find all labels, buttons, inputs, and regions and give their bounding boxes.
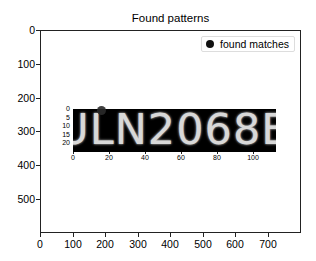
inset-x-tick-label: 100 — [247, 154, 259, 162]
inset-x-tick-label: 0 — [71, 154, 75, 162]
plate-text: ULN2068B — [73, 109, 276, 152]
inset-x-tick-label: 40 — [141, 154, 149, 162]
inset-x-tick-label: 80 — [213, 154, 221, 162]
x-tick-label: 100 — [64, 238, 82, 250]
x-tick-label: 400 — [161, 238, 179, 250]
x-tick — [170, 233, 171, 237]
legend-box: found matches — [201, 36, 295, 52]
x-tick — [203, 233, 204, 237]
plate-image: ULN2068B — [73, 109, 276, 152]
inset-x-tick-label: 20 — [105, 154, 113, 162]
x-tick-label: 500 — [194, 238, 212, 250]
y-tick-label: 500 — [17, 193, 35, 205]
y-tick-label: 400 — [17, 159, 35, 171]
y-tick — [36, 165, 40, 166]
inset-y-tick-label: 15 — [62, 131, 70, 139]
x-tick-label: 600 — [226, 238, 244, 250]
chart-title: Found patterns — [40, 12, 301, 24]
x-tick — [138, 233, 139, 237]
legend: found matches — [240, 33, 298, 50]
y-tick — [36, 199, 40, 200]
legend-marker-icon — [206, 40, 214, 48]
y-tick — [36, 98, 40, 99]
x-tick — [105, 233, 106, 237]
x-tick-label: 300 — [129, 238, 147, 250]
x-tick-label: 200 — [96, 238, 114, 250]
y-tick-label: 0 — [29, 24, 35, 36]
legend-label: found matches — [220, 38, 289, 50]
x-tick — [73, 233, 74, 237]
y-tick-label: 200 — [17, 92, 35, 104]
x-tick — [40, 233, 41, 237]
match-point — [97, 106, 106, 115]
x-tick-label: 0 — [37, 238, 43, 250]
inset-y-tick-label: 10 — [62, 122, 70, 130]
inset-y-tick-label: 0 — [66, 105, 70, 113]
x-tick-label: 700 — [259, 238, 277, 250]
y-tick — [36, 30, 40, 31]
x-tick — [235, 233, 236, 237]
inset-y-tick-label: 20 — [62, 139, 70, 147]
y-tick-label: 300 — [17, 125, 35, 137]
inset-y-tick-label: 5 — [66, 114, 70, 122]
x-tick — [268, 233, 269, 237]
y-tick — [36, 131, 40, 132]
inset-x-tick-label: 60 — [177, 154, 185, 162]
y-tick-label: 100 — [17, 58, 35, 70]
y-tick — [36, 64, 40, 65]
